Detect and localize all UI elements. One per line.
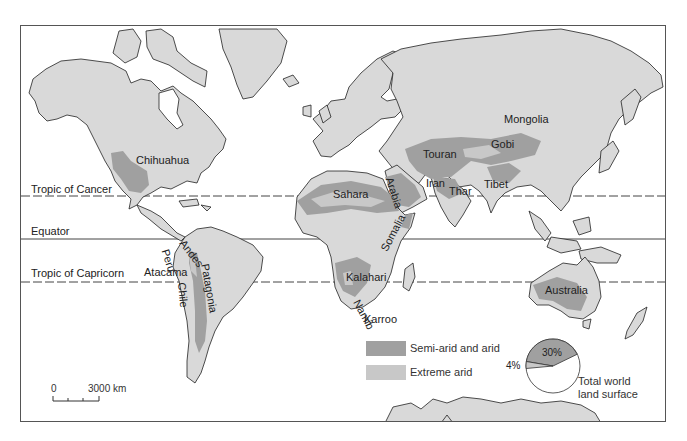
scale-start: 0: [51, 383, 57, 394]
label-mongolia: Mongolia: [504, 114, 549, 125]
pie-caption-line1: Total world: [578, 375, 631, 387]
label-tibet: Tibet: [484, 179, 508, 190]
label-kalahari: Kalahari: [346, 272, 386, 283]
land-surface-pie: [523, 336, 583, 396]
label-chile: Chile: [176, 282, 189, 308]
greenland: [219, 29, 287, 99]
label-karroo: Karroo: [364, 314, 397, 325]
legend-label-extreme-arid: Extreme arid: [410, 366, 472, 378]
label-sahara: Sahara: [333, 189, 368, 200]
label-chihuahua: Chihuahua: [136, 155, 189, 166]
label-equator: Equator: [31, 226, 70, 237]
legend-label-semi-arid: Semi-arid and arid: [410, 342, 500, 354]
label-atacama: Atacama: [144, 267, 187, 278]
legend-swatch-extreme-arid: [366, 365, 406, 380]
label-iran: Iran: [426, 178, 445, 189]
pie-label-30: 30%: [542, 348, 562, 358]
label-gobi: Gobi: [491, 139, 514, 150]
pie-caption-line2: land surface: [578, 388, 638, 400]
pie-label-4: 4%: [506, 361, 520, 371]
antarctica: [385, 397, 601, 422]
scale-end: 3000 km: [88, 383, 126, 394]
label-tropic-of-capricorn: Tropic of Capricorn: [31, 268, 124, 279]
scale-bar-line: [52, 395, 102, 403]
legend-swatch-semi-arid: [366, 341, 406, 356]
label-touran: Touran: [423, 149, 457, 160]
label-thar: Thar: [449, 186, 472, 197]
label-australia: Australia: [545, 285, 588, 296]
label-tropic-of-cancer: Tropic of Cancer: [31, 184, 112, 195]
map-frame: Chihuahua Sahara Arabia Iran Thar Touran…: [20, 25, 666, 422]
